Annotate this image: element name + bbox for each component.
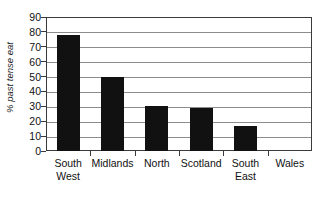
bar: [145, 106, 168, 151]
x-axis-tick-mark: [268, 151, 269, 156]
y-axis-tick-label: 20: [17, 115, 41, 127]
x-axis-category-label: North: [135, 157, 179, 170]
x-axis-category-label: Wales: [268, 157, 312, 170]
y-axis-tick-label: 50: [17, 71, 41, 83]
x-axis-category-label: Midlands: [90, 157, 134, 170]
y-axis-tick-mark: [41, 121, 46, 122]
y-axis-tick-label: 0: [17, 145, 41, 157]
y-axis-tick-mark: [41, 17, 46, 18]
x-axis-tick-mark: [223, 151, 224, 156]
y-axis-tick-mark: [41, 61, 46, 62]
bar: [234, 126, 257, 151]
y-axis-tick-label: 30: [17, 100, 41, 112]
x-axis-category-label-line: South: [232, 157, 259, 169]
bar-chart: % past tense eat 9080706050403020100 Sou…: [0, 0, 318, 197]
x-axis-category-label: SouthWest: [46, 157, 90, 183]
x-axis-category-label-line: Scotland: [181, 157, 222, 169]
y-axis-tick-mark: [41, 76, 46, 77]
y-axis-tick-mark: [41, 91, 46, 92]
bars-layer: [46, 17, 312, 151]
x-axis-category-label-line: Wales: [275, 157, 304, 169]
x-axis-category-label: SouthEast: [223, 157, 267, 183]
y-axis-tick-label: 80: [17, 26, 41, 38]
y-axis-tick-label: 40: [17, 85, 41, 97]
y-axis-title: % past tense eat: [0, 0, 18, 155]
x-axis-tick-mark: [179, 151, 180, 156]
bar: [57, 35, 80, 151]
x-axis-tick-marks: [46, 151, 312, 156]
bar: [101, 77, 124, 151]
x-axis-category-labels: SouthWestMidlandsNorthScotlandSouthEastW…: [46, 157, 312, 195]
y-axis-tick-label: 70: [17, 41, 41, 53]
bar: [190, 108, 213, 151]
x-axis-category-label-line: West: [46, 170, 90, 183]
y-axis-tick-label: 10: [17, 130, 41, 142]
x-axis-category-label: Scotland: [179, 157, 223, 170]
y-axis-tick-label: 60: [17, 56, 41, 68]
y-axis-tick-label: 90: [17, 11, 41, 23]
x-axis-category-label-line: East: [223, 170, 267, 183]
x-axis-tick-mark: [90, 151, 91, 156]
y-axis-tick-mark: [41, 31, 46, 32]
y-axis-tick-mark: [41, 106, 46, 107]
y-axis-title-text: % past tense eat: [4, 42, 15, 113]
x-axis-category-label-line: North: [144, 157, 170, 169]
y-axis-tick-mark: [41, 136, 46, 137]
x-axis-category-label-line: South: [54, 157, 81, 169]
y-axis-tick-mark: [41, 46, 46, 47]
x-axis-category-label-line: Midlands: [91, 157, 133, 169]
x-axis-tick-mark: [135, 151, 136, 156]
y-axis-tick-mark: [41, 151, 46, 152]
